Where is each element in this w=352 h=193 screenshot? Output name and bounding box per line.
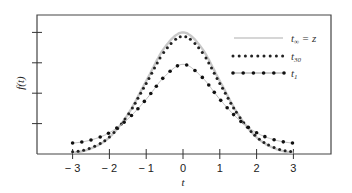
- legend-swatch-dot: [244, 55, 247, 58]
- series-dot: [212, 91, 216, 95]
- legend-swatch-dot: [269, 55, 272, 58]
- series-dot: [159, 57, 162, 60]
- series-dot: [219, 99, 223, 103]
- legend-entry: t30: [232, 50, 302, 64]
- series-dot: [273, 146, 276, 149]
- series-dot: [216, 77, 219, 80]
- y-axis-label: f(t): [14, 76, 27, 90]
- series-dot: [143, 100, 147, 104]
- series-dot: [207, 61, 210, 64]
- legend-swatch-dot: [250, 55, 253, 58]
- series-dot: [189, 38, 192, 41]
- legend-entry: t1: [231, 67, 297, 81]
- series-dot: [122, 120, 126, 124]
- legend-swatch-dot: [231, 71, 235, 75]
- series-dot: [232, 113, 236, 117]
- series-dot: [93, 145, 96, 148]
- series-dot: [179, 35, 182, 38]
- x-tick-label: 0: [180, 162, 186, 174]
- legend-swatch-dot: [282, 71, 286, 75]
- series-dot: [168, 69, 172, 73]
- x-axis-ticks: − 3− 2− 10123: [65, 149, 297, 174]
- plot-frame: [37, 15, 331, 154]
- series-dot: [225, 106, 229, 110]
- series-dot: [291, 141, 295, 145]
- x-axis-label: t: [181, 176, 185, 188]
- plot-border: [37, 15, 331, 154]
- series-dot: [284, 149, 287, 152]
- x-tick-label: − 2: [102, 162, 118, 174]
- series-dot: [232, 106, 235, 109]
- series-dot: [262, 141, 265, 144]
- series-dot: [153, 67, 156, 70]
- series-dot: [136, 97, 139, 100]
- legend-swatch-dot: [241, 71, 245, 75]
- series-dot: [239, 120, 243, 124]
- series-dot: [210, 67, 213, 70]
- legend: t∞ = zt30t1: [231, 32, 317, 81]
- series-dot: [131, 106, 134, 109]
- series-dot: [205, 57, 208, 60]
- legend-swatch-dot: [232, 55, 235, 58]
- series-dot: [88, 147, 91, 150]
- series-dot: [255, 131, 259, 135]
- x-tick-label: − 3: [65, 162, 81, 174]
- series-dot: [258, 138, 261, 141]
- legend-swatch-dot: [272, 71, 276, 75]
- series-dot: [239, 116, 242, 119]
- legend-swatch-dot: [262, 71, 266, 75]
- series-dot: [89, 138, 93, 142]
- series-dot: [267, 144, 270, 147]
- series-dot: [145, 82, 148, 85]
- series-layer: [71, 32, 294, 153]
- series-dot: [82, 149, 85, 152]
- series-dot: [235, 111, 238, 114]
- series-dot: [281, 140, 285, 144]
- x-tick-label: 1: [217, 162, 223, 174]
- series-dot: [161, 77, 165, 81]
- series-dot: [103, 139, 106, 142]
- series-dot: [134, 102, 137, 105]
- series-dot: [184, 35, 187, 38]
- series-dot: [127, 112, 130, 115]
- series-dot: [130, 114, 134, 118]
- legend-swatch-dot: [263, 55, 266, 58]
- series-dot: [147, 77, 150, 80]
- series-dot: [80, 140, 84, 144]
- series-dot: [77, 150, 80, 153]
- legend-label: t30: [291, 50, 302, 64]
- series-dot: [193, 69, 197, 73]
- x-tick-label: − 1: [138, 162, 154, 174]
- series-dot: [108, 135, 111, 138]
- series-dot: [278, 148, 281, 151]
- series-dot-dash: [71, 63, 294, 145]
- series-dot: [142, 87, 145, 90]
- series-dot: [99, 142, 102, 145]
- series-dot: [263, 135, 267, 139]
- x-tick-label: 3: [290, 162, 296, 174]
- series-dot: [162, 51, 165, 54]
- series-dot: [139, 92, 142, 95]
- series-dot: [71, 141, 75, 145]
- series-dot: [170, 42, 173, 45]
- legend-label: t1: [291, 67, 298, 81]
- legend-swatch-dot: [275, 55, 278, 58]
- x-tick-label: 2: [254, 162, 260, 174]
- series-dot: [289, 150, 292, 153]
- legend-swatch-dot: [256, 55, 259, 58]
- series-dot: [174, 38, 177, 41]
- series-dot: [229, 102, 232, 105]
- legend-swatch-dot: [252, 71, 256, 75]
- series-dot: [150, 72, 153, 75]
- series-dot: [185, 63, 189, 67]
- series-dot: [201, 51, 204, 54]
- series-dot: [218, 82, 221, 85]
- series-dot: [197, 46, 200, 49]
- series-dot: [155, 84, 159, 88]
- series-dot: [107, 131, 111, 135]
- series-dot: [115, 126, 119, 130]
- series-dot: [176, 64, 180, 68]
- series-dot: [71, 150, 74, 153]
- series-dot: [247, 126, 251, 130]
- series-dot: [156, 61, 159, 64]
